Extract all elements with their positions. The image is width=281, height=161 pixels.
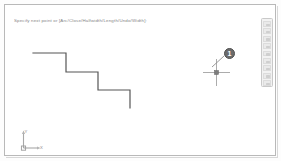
ucs-x-label: X (40, 145, 43, 150)
callout-marker-1[interactable]: 1 (224, 48, 235, 59)
palette-button-9[interactable] (263, 80, 271, 86)
palette-button-1[interactable] (263, 21, 271, 27)
palette-button-4[interactable] (263, 43, 271, 49)
ucs-y-label: Y (25, 129, 28, 134)
ucs-icon: Y X (19, 129, 47, 153)
drawing-canvas[interactable]: Specify next point or [Arc/Close/Halfwid… (5, 5, 275, 155)
callout-leader-line (212, 56, 224, 67)
palette-button-7[interactable] (263, 65, 271, 71)
palette-button-5[interactable] (263, 51, 271, 57)
palette-button-8[interactable] (263, 73, 271, 79)
palette-button-6[interactable] (263, 58, 271, 64)
vertical-tool-palette[interactable] (261, 18, 273, 87)
cad-application-window: Specify next point or [Arc/Close/Halfwid… (0, 0, 281, 161)
palette-button-2[interactable] (263, 28, 271, 34)
palette-button-3[interactable] (263, 36, 271, 42)
